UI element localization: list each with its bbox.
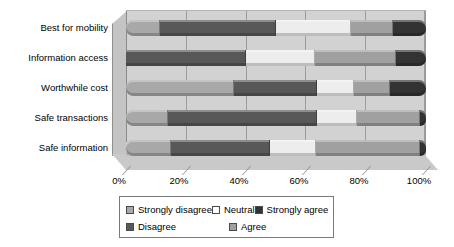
x-axis-tick-label: 100% <box>407 175 431 186</box>
legend-item-strongly-agree[interactable]: Strongly agree <box>255 205 329 215</box>
x-axis-tick <box>182 166 201 175</box>
x-axis-tick-label: 40% <box>229 175 248 186</box>
bar-segment[interactable] <box>126 20 160 36</box>
bar-segment[interactable] <box>126 80 234 96</box>
stacked-bar <box>126 80 426 96</box>
x-axis-tick <box>242 166 261 175</box>
y-axis-label: Worthwhile cost <box>41 83 108 93</box>
bar-row <box>126 20 426 36</box>
y-axis-label: Best for mobility <box>40 23 108 33</box>
y-axis-label: Safe transactions <box>35 113 108 123</box>
stacked-bar <box>126 50 426 66</box>
bar-segment[interactable] <box>168 110 317 126</box>
legend-item-strongly-disagree[interactable]: Strongly disagree <box>126 205 212 215</box>
bar-segment[interactable] <box>234 80 318 96</box>
bar-segment[interactable] <box>420 110 426 126</box>
legend-swatch-strongly-agree <box>255 206 263 214</box>
bar-row <box>126 140 426 156</box>
legend-swatch-disagree <box>126 223 134 231</box>
stacked-bar <box>126 110 426 126</box>
legend-label-agree: Agree <box>241 222 266 232</box>
bar-segment[interactable] <box>276 20 351 36</box>
y-axis-label: Information access <box>28 53 108 63</box>
x-axis-tick-label: 60% <box>289 175 308 186</box>
x-axis: 0%20%40%60%80%100% <box>112 166 438 190</box>
x-axis-tick <box>302 166 321 175</box>
legend-label-strongly-disagree: Strongly disagree <box>138 205 212 215</box>
y-axis-label: Safe information <box>39 143 108 153</box>
legend-swatch-agree <box>229 223 237 231</box>
x-axis-tick <box>362 166 381 175</box>
x-axis-tick <box>122 166 141 175</box>
x-axis-tick-label: 0% <box>112 175 126 186</box>
bars-layer <box>126 10 426 156</box>
bar-segment[interactable] <box>396 50 426 66</box>
x-axis-tick-label: 80% <box>349 175 368 186</box>
bar-segment[interactable] <box>316 140 421 156</box>
bar-segment[interactable] <box>357 110 420 126</box>
chart-legend: Strongly disagree Neutral Strongly agree… <box>119 196 334 238</box>
legend-item-agree[interactable]: Agree <box>229 222 291 232</box>
bar-segment[interactable] <box>270 140 315 156</box>
x-axis-tick-label: 20% <box>169 175 188 186</box>
legend-row-top: Strongly disagree Neutral Strongly agree <box>126 201 327 218</box>
bar-row <box>126 80 426 96</box>
bar-segment[interactable] <box>317 80 354 96</box>
x-axis-tick <box>422 166 441 175</box>
legend-label-neutral: Neutral <box>224 205 255 215</box>
legend-label-disagree: Disagree <box>138 222 176 232</box>
legend-item-disagree[interactable]: Disagree <box>126 222 229 232</box>
legend-swatch-neutral <box>212 206 220 214</box>
stacked-bar-chart: Best for mobilityInformation accessWorth… <box>0 0 454 247</box>
legend-swatch-strongly-disagree <box>126 206 134 214</box>
stacked-bar <box>126 140 426 156</box>
bar-row <box>126 50 426 66</box>
bar-segment[interactable] <box>420 140 426 156</box>
bar-row <box>126 110 426 126</box>
bar-segment[interactable] <box>393 20 426 36</box>
bar-segment[interactable] <box>354 80 391 96</box>
bar-segment[interactable] <box>171 140 270 156</box>
bar-segment[interactable] <box>246 50 315 66</box>
bar-segment[interactable] <box>126 140 171 156</box>
bar-segment[interactable] <box>315 50 396 66</box>
bar-segment[interactable] <box>351 20 393 36</box>
legend-label-strongly-agree: Strongly agree <box>267 205 329 215</box>
stacked-bar <box>126 20 426 36</box>
bar-segment[interactable] <box>126 50 246 66</box>
bar-segment[interactable] <box>317 110 356 126</box>
legend-item-neutral[interactable]: Neutral <box>212 205 255 215</box>
bar-segment[interactable] <box>390 80 426 96</box>
y-axis-category-labels: Best for mobilityInformation accessWorth… <box>0 14 112 166</box>
legend-row-bottom: Disagree Agree <box>126 218 327 235</box>
plot-area <box>112 10 438 170</box>
bar-segment[interactable] <box>160 20 276 36</box>
bar-segment[interactable] <box>126 110 168 126</box>
